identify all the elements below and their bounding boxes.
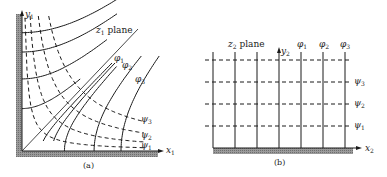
psi3-label-b: ψ3 [354, 76, 365, 87]
y1-axis-arrow-icon [20, 10, 24, 16]
x2-axis-label: x2 [365, 143, 374, 154]
phi1-label-b: φ1 [297, 39, 307, 50]
phi3-label-a: φ3 [135, 74, 145, 85]
equipotential-phi-a [22, 0, 117, 33]
wall-horizontal-a [16, 151, 158, 157]
z1-plane-label: z1 plane [95, 25, 133, 36]
phi2-label-a: φ2 [122, 60, 132, 71]
z2-plane-label: z2 plane [227, 39, 265, 50]
x1-axis-label: x1 [166, 145, 175, 156]
phi2-label-b: φ2 [319, 39, 329, 50]
caption-a: (a) [83, 161, 94, 170]
psi1-label-a: ψ1 [141, 140, 152, 151]
equipotential-phi-a [43, 63, 112, 141]
phi3-label-b: φ3 [340, 39, 350, 50]
x2-axis-arrow-icon [356, 146, 362, 150]
panel-a: y1 x1 z1 plane φ1 φ2 φ3 ψ3 ψ2 ψ1 (a) [16, 0, 175, 170]
caption-b: (b) [274, 158, 285, 167]
psi2-label-b: ψ2 [354, 98, 365, 109]
psi1-label-b: ψ1 [354, 120, 365, 131]
x1-axis-arrow-icon [158, 149, 164, 153]
y1-axis-label: y1 [24, 9, 34, 20]
wall-vertical-a [16, 14, 22, 157]
diagonal-line [22, 29, 138, 151]
streamline-psi-a [25, 18, 144, 148]
wall-horizontal-b [213, 148, 353, 154]
equipotential-phi-a [22, 40, 107, 79]
equipotential-phi-a [54, 63, 115, 141]
y2-axis-label: y2 [280, 46, 290, 57]
conformal-mapping-figure: y1 x1 z1 plane φ1 φ2 φ3 ψ3 ψ2 ψ1 (a) z2 … [0, 0, 387, 177]
panel-b: z2 plane y2 x2 φ1 φ2 φ3 ψ3 ψ2 ψ1 (b) [205, 39, 374, 167]
psi3-label-a: ψ3 [141, 114, 152, 125]
flow-net-b [205, 52, 352, 148]
